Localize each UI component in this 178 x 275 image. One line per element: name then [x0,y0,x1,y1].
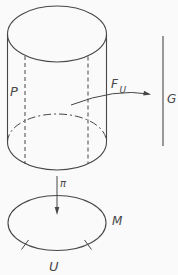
label-group-G: G [167,92,176,106]
trivialization-arrow [71,91,151,105]
projection-arrowhead [55,207,60,215]
cylinder-total-space [8,6,107,170]
open-set-tick-right [85,240,92,250]
label-open-set-U: U [49,259,59,274]
cylinder-top-ellipse [8,6,107,62]
label-fiber-subscript-U: U [120,85,127,95]
label-fiber-F: F [111,77,119,91]
trivialization-arrowhead [143,91,151,96]
fiber-bundle-diagram: P F U G π M U [0,0,178,275]
trivialization-arrow-curve [71,92,149,105]
label-base-manifold-M: M [112,214,123,228]
label-projection-pi: π [60,178,67,189]
cylinder-bottom-front-arc [8,142,107,170]
label-total-space-P: P [10,84,18,99]
cylinder-bottom-back-arc [8,114,107,142]
label-fiber-FU: F U [111,77,127,95]
